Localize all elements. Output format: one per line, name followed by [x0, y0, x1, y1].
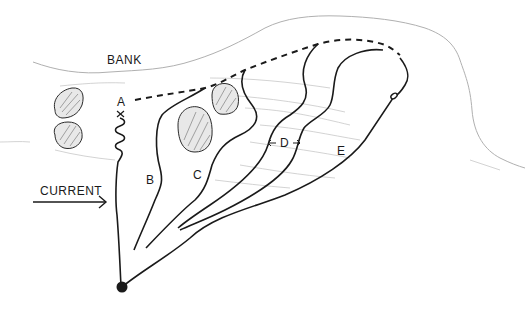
label-a: A [117, 96, 126, 108]
rocks [54, 83, 238, 152]
drift-diagram [0, 0, 530, 314]
rod-tip-dot [117, 282, 128, 293]
label-c: C [193, 169, 202, 181]
float-icon [390, 92, 398, 100]
x-mark [117, 111, 124, 117]
line-e [122, 58, 408, 287]
label-d: D [280, 137, 289, 149]
rock-left-upper [54, 88, 83, 118]
rock-center-large [178, 107, 212, 152]
label-b: B [146, 174, 155, 186]
label-e: E [337, 145, 346, 157]
line-a [116, 118, 125, 287]
current-label: CURRENT [40, 185, 102, 197]
dashed-path [135, 40, 400, 100]
bank-line [33, 16, 525, 168]
diagram-canvas: BANK CURRENT A B C D E [0, 0, 530, 314]
bank-label: BANK [107, 54, 142, 66]
